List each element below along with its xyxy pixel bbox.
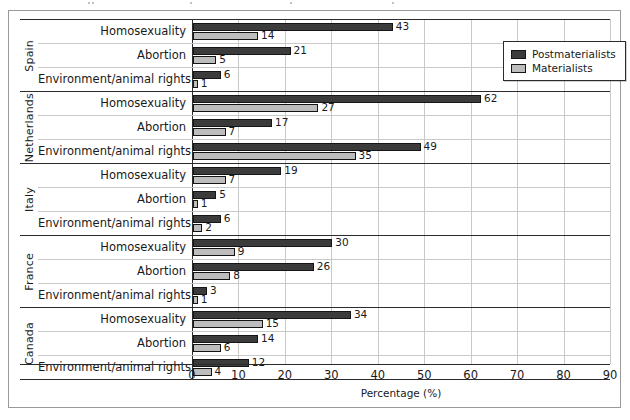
bar-container-materialists: 1	[193, 200, 610, 208]
bar-container-materialists: 7	[193, 176, 610, 184]
x-tick-label-0: 0	[188, 368, 195, 382]
bar-materialists[interactable]	[193, 272, 230, 280]
x-tick-label-90: 90	[603, 368, 618, 382]
bar-value-postmaterialists: 30	[332, 236, 348, 248]
chart-row-label: Abortion	[38, 44, 192, 67]
legend-item-postmaterialists[interactable]: Postmaterialists	[511, 47, 616, 61]
bar-postmaterialists[interactable]	[193, 95, 481, 103]
bar-materialists[interactable]	[193, 128, 226, 136]
chart-figure: SpainHomosexuality4314Abortion215Environ…	[8, 10, 621, 408]
bar-value-materialists: 2	[202, 221, 212, 233]
bar-value-materialists: 5	[216, 53, 226, 65]
chart-row: Environment/animal rights31	[38, 283, 610, 307]
x-tick-label-50: 50	[417, 368, 432, 382]
x-tick-label-80: 80	[556, 368, 571, 382]
chart-row: Abortion268	[38, 259, 610, 283]
bar-value-materialists: 35	[356, 149, 372, 161]
bar-postmaterialists[interactable]	[193, 263, 314, 271]
bar-value-postmaterialists: 6	[221, 212, 231, 224]
x-tick-label-40: 40	[370, 368, 385, 382]
chart-row: Environment/animal rights4935	[38, 139, 610, 163]
bar-postmaterialists[interactable]	[193, 167, 281, 175]
bar-container-materialists: 7	[193, 128, 610, 136]
bar-container-postmaterialists: 30	[193, 239, 610, 247]
chart-row-plot: 4935	[192, 140, 610, 163]
bar-materialists[interactable]	[193, 224, 202, 232]
bar-container-materialists: 9	[193, 248, 610, 256]
chart-row-plot: 197	[192, 164, 610, 187]
bar-value-materialists: 27	[318, 101, 334, 113]
legend-item-materialists[interactable]: Materialists	[511, 61, 616, 75]
bar-value-materialists: 15	[263, 317, 279, 329]
bar-value-postmaterialists: 3	[207, 284, 217, 296]
country-rows: Homosexuality197Abortion51Environment/an…	[38, 164, 610, 235]
bar-value-postmaterialists: 49	[421, 140, 437, 152]
chart-row: Homosexuality3415	[38, 308, 610, 331]
country-group: FranceHomosexuality309Abortion268Environ…	[20, 235, 610, 307]
bar-value-postmaterialists: 34	[351, 308, 367, 320]
chart-row-plot: 268	[192, 260, 610, 283]
bar-container-postmaterialists: 62	[193, 95, 610, 103]
bar-postmaterialists[interactable]	[193, 23, 393, 31]
bar-materialists[interactable]	[193, 104, 318, 112]
chart-row-plot: 309	[192, 236, 610, 259]
bar-postmaterialists[interactable]	[193, 143, 421, 151]
bar-container-postmaterialists: 49	[193, 143, 610, 151]
bar-materialists[interactable]	[193, 56, 216, 64]
bar-container-materialists: 6	[193, 344, 610, 352]
bar-materialists[interactable]	[193, 248, 235, 256]
bar-value-materialists: 6	[221, 341, 231, 353]
bar-materialists[interactable]	[193, 344, 221, 352]
x-tick-label-60: 60	[463, 368, 478, 382]
chart-row-label: Homosexuality	[38, 92, 192, 115]
chart-row-plot: 6227	[192, 92, 610, 115]
chart-row: Homosexuality4314	[38, 20, 610, 43]
bar-container-postmaterialists: 6	[193, 215, 610, 223]
bar-value-materialists: 14	[258, 29, 274, 41]
bar-container-materialists: 2	[193, 224, 610, 232]
chart-legend: Postmaterialists Materialists	[503, 41, 626, 81]
bar-postmaterialists[interactable]	[193, 47, 291, 55]
bar-container-postmaterialists: 34	[193, 311, 610, 319]
bar-container-materialists: 8	[193, 272, 610, 280]
bar-value-materialists: 7	[226, 125, 236, 137]
country-label: Netherlands	[20, 92, 38, 163]
bar-materialists[interactable]	[193, 176, 226, 184]
country-label-text: Spain	[23, 40, 36, 72]
chart-row-label: Homosexuality	[38, 236, 192, 259]
x-axis-line	[20, 364, 610, 365]
bar-value-materialists: 9	[235, 245, 245, 257]
x-axis-title: Percentage (%)	[192, 387, 610, 399]
chart-row-label: Abortion	[38, 188, 192, 211]
bar-container-materialists: 1	[193, 80, 610, 88]
chart-row-plot: 62	[192, 212, 610, 235]
bar-materialists[interactable]	[193, 32, 258, 40]
x-tick-label-10: 10	[231, 368, 246, 382]
bar-value-postmaterialists: 62	[481, 92, 497, 104]
bar-container-postmaterialists: 26	[193, 263, 610, 271]
x-tick-label-20: 20	[278, 368, 293, 382]
bar-container-materialists: 1	[193, 296, 610, 304]
bar-value-postmaterialists: 17	[272, 116, 288, 128]
legend-swatch-materialists	[511, 64, 526, 73]
country-label: France	[20, 236, 38, 307]
country-group: ItalyHomosexuality197Abortion51Environme…	[20, 163, 610, 235]
legend-swatch-postmaterialists	[511, 50, 526, 59]
bar-value-materialists: 1	[198, 197, 208, 209]
chart-row-label: Homosexuality	[38, 20, 192, 43]
chart-row-plot: 31	[192, 284, 610, 307]
chart-row: Homosexuality6227	[38, 92, 610, 115]
chart-row-label: Environment/animal rights	[38, 68, 192, 91]
bar-materialists[interactable]	[193, 152, 356, 160]
x-tick-label-30: 30	[324, 368, 339, 382]
bar-value-materialists: 7	[226, 173, 236, 185]
chart-row: Homosexuality197	[38, 164, 610, 187]
chart-row-plot: 3415	[192, 308, 610, 331]
bar-value-postmaterialists: 26	[314, 260, 330, 272]
country-group: NetherlandsHomosexuality6227Abortion177E…	[20, 91, 610, 163]
bar-postmaterialists[interactable]	[193, 239, 332, 247]
bar-container-materialists: 14	[193, 32, 610, 40]
bar-value-materialists: 1	[198, 77, 208, 89]
bar-value-postmaterialists: 5	[216, 188, 226, 200]
bar-materialists[interactable]	[193, 320, 263, 328]
